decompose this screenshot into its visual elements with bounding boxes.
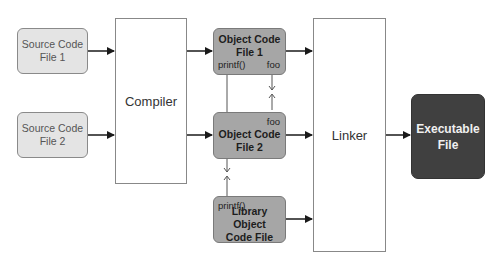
source-code-file-1: Source Code File 1 (17, 28, 88, 74)
foo-reference-link (269, 75, 275, 110)
library-printf-port: printf() (218, 199, 245, 212)
linker-box: Linker (313, 18, 386, 252)
compiler-box: Compiler (115, 18, 187, 184)
object1-foo-port: foo (267, 58, 280, 71)
object-code-file-2-label: Object Code File 2 (219, 128, 281, 154)
object-code-file-2: Object Code File 2 foo (213, 112, 286, 159)
object-code-file-1-label: Object Code File 1 (219, 33, 281, 59)
source-code-file-2-label: Source Code File 2 (22, 122, 83, 148)
source-code-file-1-label: Source Code File 1 (22, 38, 83, 64)
source-code-file-2: Source Code File 2 (17, 112, 88, 158)
object1-printf-port: printf() (218, 58, 245, 71)
compiler-label: Compiler (125, 94, 177, 109)
object-code-file-1: Object Code File 1 printf() foo (213, 28, 286, 75)
linker-label: Linker (332, 128, 367, 143)
executable-file-label: Executable File (416, 121, 479, 153)
executable-file: Executable File (411, 94, 485, 179)
library-object-code-file: Library Object Code File printf() (213, 196, 286, 243)
object2-foo-port: foo (267, 115, 280, 128)
